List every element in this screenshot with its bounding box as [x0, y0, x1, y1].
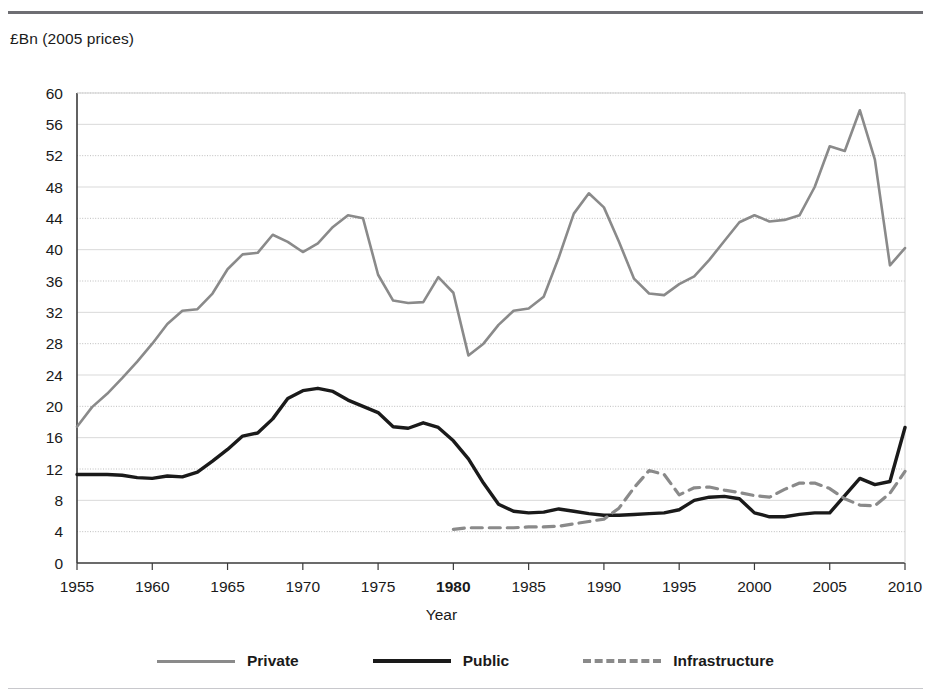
legend-swatch-private-icon: [157, 660, 235, 663]
y-axis-tick-label: 28: [46, 335, 63, 352]
chart-legend: Private Public Infrastructure: [0, 652, 931, 670]
y-axis-tick-label: 44: [46, 210, 64, 227]
y-axis-tick-label: 56: [46, 116, 63, 133]
x-axis-tick-label: 1995: [662, 578, 696, 595]
series-line-public: [77, 388, 905, 516]
x-axis-tick-label: 1985: [511, 578, 545, 595]
x-axis-tick-label: 1975: [361, 578, 395, 595]
y-axis-tick-label: 40: [46, 241, 64, 258]
y-axis-tick-label: 12: [46, 461, 63, 478]
y-axis-tick-label: 32: [46, 304, 63, 321]
legend-label-private: Private: [247, 652, 299, 670]
legend-label-public: Public: [463, 652, 510, 670]
line-chart-plot: 04812162024283236404448525660 1955196019…: [0, 0, 931, 700]
bottom-divider-rule: [8, 688, 923, 689]
y-axis-tick-label: 36: [46, 273, 63, 290]
x-axis-tick-label: 2010: [888, 578, 923, 595]
x-axis-tick-label: 2000: [737, 578, 772, 595]
figure-container: £Bn (2005 prices) 0481216202428323640444…: [0, 0, 931, 700]
x-axis-tick-group: 1955196019651970197519801985199019952000…: [60, 563, 923, 595]
y-axis-tick-label: 48: [46, 179, 63, 196]
x-axis-tick-label: 1970: [286, 578, 321, 595]
legend-swatch-public-icon: [373, 659, 451, 663]
y-axis-tick-label: 4: [54, 523, 63, 540]
x-axis-tick-label: 1980: [436, 578, 470, 595]
legend-swatch-infrastructure-icon: [583, 659, 661, 663]
legend-item-infrastructure: Infrastructure: [583, 652, 774, 670]
legend-item-private: Private: [157, 652, 299, 670]
y-axis-tick-label: 20: [46, 398, 64, 415]
y-axis-tick-label: 0: [54, 555, 63, 572]
y-axis-tick-label: 60: [46, 85, 64, 102]
x-axis-tick-label: 1965: [210, 578, 244, 595]
x-axis-title-text: Year: [426, 606, 457, 623]
y-axis-tick-group: 04812162024283236404448525660: [46, 85, 64, 572]
x-axis-title: Year: [0, 606, 931, 624]
gridline-group: [77, 93, 905, 532]
x-axis-tick-label: 1955: [60, 578, 94, 595]
y-axis-tick-label: 8: [54, 492, 63, 509]
y-axis-tick-label: 24: [46, 367, 64, 384]
legend-label-infrastructure: Infrastructure: [673, 652, 774, 670]
data-series-group: [77, 110, 905, 529]
x-axis-tick-label: 2005: [812, 578, 846, 595]
x-axis-tick-label: 1990: [587, 578, 622, 595]
x-axis-tick-label: 1960: [135, 578, 170, 595]
series-line-private: [77, 110, 905, 426]
legend-item-public: Public: [373, 652, 510, 670]
y-axis-tick-label: 52: [46, 147, 63, 164]
y-axis-tick-label: 16: [46, 429, 63, 446]
